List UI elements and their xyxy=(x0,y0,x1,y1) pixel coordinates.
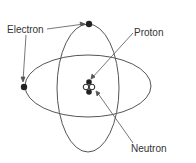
electron-left xyxy=(21,84,27,90)
proton-bottom xyxy=(86,89,92,95)
atom-diagram: Electron Proton Neutron xyxy=(0,0,196,163)
electron-top xyxy=(86,21,92,27)
electron-leader-left xyxy=(23,35,26,81)
nucleus xyxy=(83,79,95,95)
neutron-right xyxy=(89,84,95,90)
arrowhead-icon xyxy=(91,74,95,79)
proton-label: Proton xyxy=(134,28,163,38)
arrowhead-icon xyxy=(80,22,85,26)
neutron-left xyxy=(83,84,89,90)
neutron-label: Neutron xyxy=(131,144,167,154)
arrowhead-icon xyxy=(21,77,25,82)
neutron-leader xyxy=(97,92,133,143)
electron-label: Electron xyxy=(7,25,44,35)
